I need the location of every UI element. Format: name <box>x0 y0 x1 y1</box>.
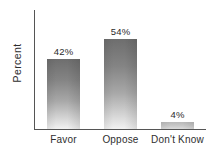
bar-value-label: 42% <box>54 47 74 57</box>
bar-value-label: 4% <box>170 110 184 120</box>
x-tick-label-dont-know: Don't Know <box>149 134 205 145</box>
bar-rect <box>104 39 137 129</box>
x-axis-line <box>34 129 206 130</box>
x-tick-label-favor: Favor <box>35 134 91 145</box>
bar-value-label: 54% <box>111 27 131 37</box>
y-axis-title: Percent <box>0 0 32 125</box>
bar-rect <box>161 122 194 129</box>
x-axis-tick-labels: Favor Oppose Don't Know <box>35 134 206 145</box>
bar-item-dont-know: 4% <box>149 10 205 129</box>
plot-area: 42% 54% 4% <box>34 10 206 130</box>
bar-rect <box>47 59 80 129</box>
bar-item-favor: 42% <box>35 10 91 129</box>
y-axis-title-text: Percent <box>10 43 22 82</box>
bar-group: 42% 54% 4% <box>35 10 206 129</box>
bar-item-oppose: 54% <box>92 10 148 129</box>
bar-chart: Percent 42% 54% 4% Favor Oppose Don't Kn… <box>0 0 213 156</box>
x-tick-label-oppose: Oppose <box>92 134 148 145</box>
